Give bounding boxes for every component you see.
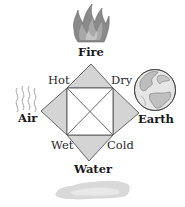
globe-icon — [135, 70, 176, 111]
element-label-earth: Earth — [138, 114, 174, 126]
quality-label-hot: Hot — [48, 75, 70, 87]
quality-label-cold: Cold — [107, 140, 134, 152]
air-triangle — [41, 88, 67, 135]
element-label-water: Water — [74, 164, 112, 176]
element-label-air: Air — [18, 113, 37, 125]
fire-triangle — [67, 64, 113, 88]
elements-diagram: Fire Air Earth Water Hot Dry Wet Cold — [0, 0, 185, 207]
quality-label-dry: Dry — [111, 75, 132, 87]
quality-label-wet: Wet — [51, 140, 73, 152]
element-label-fire: Fire — [78, 47, 104, 59]
flame-icon — [73, 4, 109, 42]
air-waves-icon — [16, 86, 36, 112]
puddle-icon — [55, 181, 129, 200]
